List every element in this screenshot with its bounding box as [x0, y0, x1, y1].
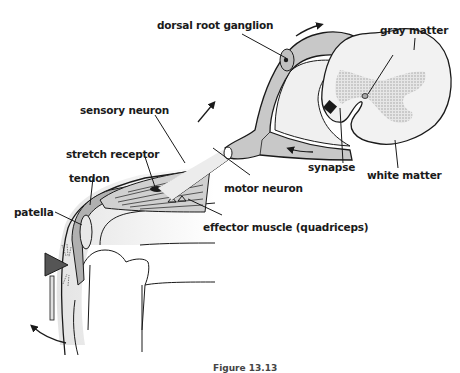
label-dorsal-root-ganglion: dorsal root ganglion [157, 19, 273, 31]
label-effector-muscle: effector muscle (quadriceps) [203, 221, 368, 233]
impulse-arrow-up-icon [198, 104, 213, 122]
label-sensory-neuron: sensory neuron [80, 104, 169, 116]
label-gray-matter: gray matter [380, 24, 448, 36]
label-synapse: synapse [308, 161, 355, 173]
figure-caption: Figure 13.13 [213, 363, 277, 373]
label-white-matter: white matter [367, 169, 442, 181]
label-patella: patella [14, 206, 54, 218]
patella-bone [80, 215, 92, 249]
label-motor-neuron: motor neuron [224, 182, 303, 194]
label-stretch-receptor: stretch receptor [66, 148, 159, 160]
label-tendon: tendon [69, 172, 110, 184]
